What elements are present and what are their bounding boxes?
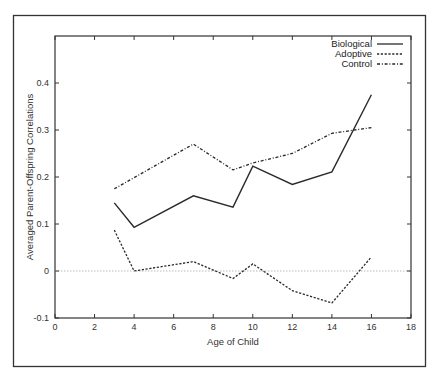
y-tick-label: 0.4 xyxy=(36,78,49,88)
x-tick-label: 6 xyxy=(171,322,176,332)
x-tick-label: 14 xyxy=(327,322,337,332)
legend: BiologicalAdoptiveControl xyxy=(331,38,403,69)
x-tick-label: 12 xyxy=(287,322,297,332)
y-axis-title: Averaged Parent-Offspring Correlations xyxy=(24,93,35,260)
x-tick-label: 16 xyxy=(366,322,376,332)
x-tick-label: 4 xyxy=(132,322,137,332)
x-tick-label: 18 xyxy=(406,322,416,332)
line-chart: 024681012141618-0.100.10.20.30.4 Biologi… xyxy=(0,0,436,380)
x-tick-label: 10 xyxy=(248,322,258,332)
x-tick-label: 0 xyxy=(52,322,57,332)
series-control xyxy=(114,128,371,189)
legend-label-control: Control xyxy=(341,58,372,69)
y-tick-label: 0.1 xyxy=(36,219,49,229)
plot-frame xyxy=(55,36,411,318)
series-biological xyxy=(114,95,371,228)
y-tick-label: 0.2 xyxy=(36,172,49,182)
y-tick-label: 0 xyxy=(44,266,49,276)
plot-area xyxy=(55,36,411,318)
axes: 024681012141618-0.100.10.20.30.4 xyxy=(33,36,416,332)
data-series xyxy=(114,95,371,303)
y-tick-label: -0.1 xyxy=(33,313,49,323)
x-tick-label: 2 xyxy=(92,322,97,332)
x-tick-label: 8 xyxy=(211,322,216,332)
x-axis-title: Age of Child xyxy=(207,336,259,347)
y-tick-label: 0.3 xyxy=(36,125,49,135)
series-adoptive xyxy=(114,230,371,303)
